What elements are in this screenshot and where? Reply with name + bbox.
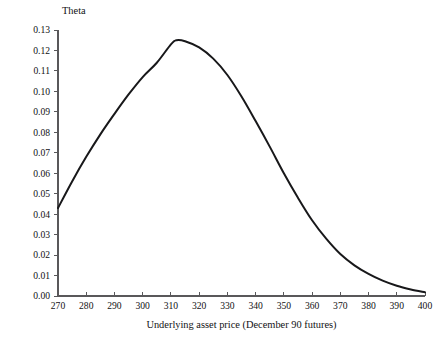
x-tick-label: 370: [333, 300, 348, 311]
y-tick-label: 0.00: [33, 290, 50, 301]
chart-canvas: 0.000.010.020.030.040.050.060.070.080.09…: [0, 0, 441, 339]
x-tick-label: 300: [135, 300, 150, 311]
y-tick-label: 0.13: [33, 24, 50, 35]
y-tick-label: 0.09: [33, 106, 50, 117]
x-axis-title: Underlying asset price (December 90 futu…: [146, 319, 336, 331]
theta-chart: 0.000.010.020.030.040.050.060.070.080.09…: [0, 0, 441, 339]
y-tick-label: 0.07: [33, 147, 50, 158]
x-tick-label: 290: [107, 300, 122, 311]
y-axis-title: Theta: [62, 5, 86, 16]
x-tick-label: 340: [248, 300, 263, 311]
y-tick-label: 0.06: [33, 168, 50, 179]
y-tick-label: 0.12: [33, 45, 50, 56]
x-tick-label: 310: [164, 300, 179, 311]
x-tick-label: 270: [51, 300, 66, 311]
x-tick-label: 280: [79, 300, 94, 311]
y-tick-label: 0.08: [33, 127, 50, 138]
x-tick-label: 330: [220, 300, 235, 311]
x-tick-label: 360: [305, 300, 320, 311]
y-tick-label: 0.11: [34, 65, 51, 76]
x-tick-label: 400: [418, 300, 433, 311]
x-tick-label: 350: [277, 300, 292, 311]
chart-background: [0, 0, 441, 339]
y-tick-label: 0.04: [33, 209, 50, 220]
y-tick-label: 0.10: [33, 86, 50, 97]
x-tick-label: 380: [361, 300, 376, 311]
y-tick-label: 0.03: [33, 229, 50, 240]
x-tick-label: 390: [390, 300, 405, 311]
y-tick-label: 0.05: [33, 188, 50, 199]
y-tick-label: 0.01: [33, 270, 50, 281]
x-tick-label: 320: [192, 300, 207, 311]
y-tick-label: 0.02: [33, 249, 50, 260]
